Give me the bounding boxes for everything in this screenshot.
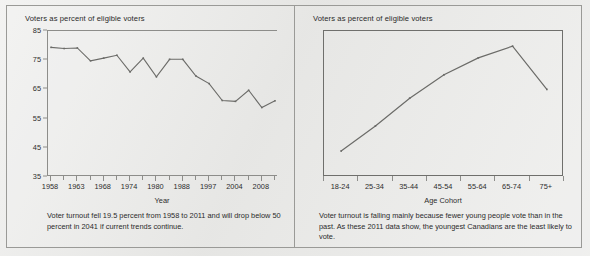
- y-tick-mark: [43, 59, 47, 60]
- x-tick-mark: [248, 176, 249, 180]
- line-series-year: [48, 31, 278, 177]
- x-tick-mark: [103, 176, 104, 181]
- y-tick-label: 55: [19, 113, 41, 122]
- x-tick-mark: [208, 176, 209, 181]
- x-tick-mark: [221, 176, 222, 180]
- x-tick-mark: [182, 176, 183, 181]
- x-tick-mark: [142, 176, 143, 180]
- x-tick-mark: [563, 176, 564, 181]
- x-tick-mark: [529, 176, 530, 181]
- chart-panel-age-cohort: Voters as percent of eligible voters 18-…: [295, 6, 583, 247]
- x-tick-mark: [76, 176, 77, 181]
- plot-area-age-cohort: [323, 30, 563, 176]
- x-tick-mark: [357, 176, 358, 181]
- x-tick-mark: [274, 176, 275, 180]
- x-tick-label: 1997: [200, 182, 216, 191]
- y-tick-mark: [43, 176, 47, 177]
- y-tick-mark: [43, 146, 47, 147]
- chart-panel-year: Voters as percent of eligible voters 354…: [7, 6, 295, 247]
- x-tick-mark: [155, 176, 156, 181]
- x-tick-label: 1988: [174, 182, 190, 191]
- x-tick-mark: [392, 176, 393, 181]
- x-tick-mark: [116, 176, 117, 180]
- y-tick-label: 75: [19, 55, 41, 64]
- x-tick-mark: [426, 176, 427, 181]
- panel-header-left: Voters as percent of eligible voters: [25, 14, 145, 23]
- x-tick-mark: [50, 176, 51, 181]
- x-tick-mark: [460, 176, 461, 181]
- x-tick-mark: [323, 176, 324, 181]
- y-tick-mark: [43, 88, 47, 89]
- y-tick-label: 45: [19, 142, 41, 151]
- y-tick-label: 85: [19, 26, 41, 35]
- x-tick-label: 65-74: [502, 182, 521, 191]
- caption-age-cohort: Voter turnout is falling mainly because …: [319, 211, 574, 243]
- x-tick-mark: [129, 176, 130, 181]
- x-tick-label: 1974: [121, 182, 137, 191]
- x-tick-label: 75+: [540, 182, 553, 191]
- x-tick-label: 18-24: [331, 182, 350, 191]
- x-tick-label: 45-54: [434, 182, 453, 191]
- figure-frame: Voters as percent of eligible voters 354…: [6, 5, 582, 248]
- x-tick-mark: [195, 176, 196, 180]
- x-tick-mark: [169, 176, 170, 180]
- y-tick-mark: [43, 30, 47, 31]
- y-tick-label: 35: [19, 172, 41, 181]
- x-tick-label: 2008: [253, 182, 269, 191]
- x-tick-mark: [63, 176, 64, 180]
- x-tick-label: 35-44: [399, 182, 418, 191]
- line-series-age-cohort: [324, 31, 564, 177]
- plot-area-year: [47, 30, 277, 176]
- panel-header-right: Voters as percent of eligible voters: [313, 14, 433, 23]
- x-tick-label: 55-64: [468, 182, 487, 191]
- x-tick-label: 1963: [68, 182, 84, 191]
- x-axis-title-year: Year: [155, 196, 170, 205]
- x-tick-mark: [90, 176, 91, 180]
- x-tick-label: 2004: [226, 182, 242, 191]
- caption-year: Voter turnout fell 19.5 percent from 195…: [47, 211, 287, 232]
- x-axis-title-age-cohort: Age Cohort: [424, 196, 461, 205]
- x-tick-label: 1968: [94, 182, 110, 191]
- x-tick-mark: [494, 176, 495, 181]
- x-tick-label: 1980: [147, 182, 163, 191]
- x-tick-mark: [261, 176, 262, 181]
- y-tick-label: 65: [19, 84, 41, 93]
- x-tick-label: 1958: [42, 182, 58, 191]
- x-tick-mark: [234, 176, 235, 181]
- y-tick-mark: [43, 117, 47, 118]
- x-tick-label: 25-34: [365, 182, 384, 191]
